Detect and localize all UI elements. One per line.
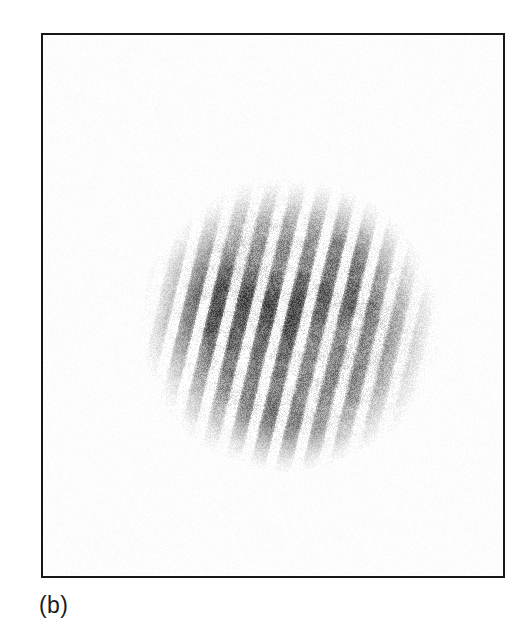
plot-frame <box>41 33 505 578</box>
panel-label: (b) <box>39 592 68 618</box>
fringe-pattern-image <box>43 35 502 575</box>
figure-root: (b) <box>0 0 527 623</box>
